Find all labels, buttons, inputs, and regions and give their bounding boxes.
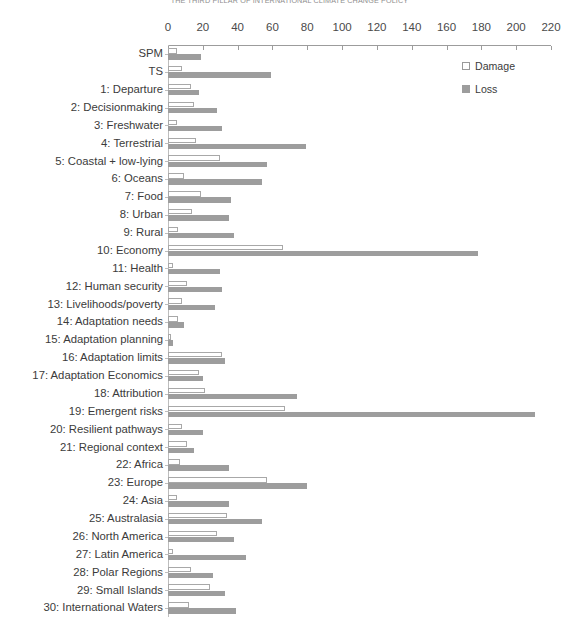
bar-loss (168, 608, 236, 613)
category-label: 20: Resilient pathways (50, 420, 163, 438)
bar-loss (168, 519, 262, 524)
category-label: 21: Regional context (60, 438, 163, 456)
bar-damage (168, 584, 210, 589)
bar-loss (168, 537, 234, 542)
bar-damage (168, 406, 285, 411)
category-label: 15: Adaptation planning (45, 331, 163, 349)
chart-category-row: 6: Oceans (168, 170, 551, 188)
x-axis-tick-40: 40 (231, 21, 244, 33)
bar-damage (168, 120, 177, 125)
category-label: 29: Small Islands (77, 581, 163, 599)
bar-damage (168, 316, 178, 321)
bar-loss (168, 251, 478, 256)
category-label: 24: Asia (123, 492, 163, 510)
bar-damage (168, 602, 189, 607)
chart-category-row: 10: Economy (168, 242, 551, 260)
bar-damage (168, 531, 217, 536)
bar-loss (168, 322, 184, 327)
bar-damage (168, 173, 184, 178)
x-axis-tick-180: 180 (472, 21, 491, 33)
bar-loss (168, 108, 217, 113)
x-axis-tick-80: 80 (301, 21, 314, 33)
x-axis-tick-60: 60 (266, 21, 279, 33)
category-label: 30: International Waters (43, 599, 163, 617)
category-label: 16: Adaptation limits (62, 349, 163, 367)
x-axis-tick-220: 220 (541, 21, 560, 33)
bar-loss (168, 358, 225, 363)
bar-loss (168, 340, 173, 345)
bar-damage (168, 66, 182, 71)
chart-category-row: 14: Adaptation needs (168, 313, 551, 331)
bar-loss (168, 483, 307, 488)
bar-damage (168, 263, 173, 268)
bar-damage (168, 441, 187, 446)
chart-category-row: 8: Urban (168, 206, 551, 224)
x-axis-tick-200: 200 (507, 21, 526, 33)
bar-loss (168, 448, 194, 453)
category-label: 13: Livelihoods/poverty (47, 295, 163, 313)
bar-loss (168, 501, 229, 506)
bar-loss (168, 269, 220, 274)
bar-damage (168, 477, 267, 482)
bar-damage (168, 227, 178, 232)
category-label: 12: Human security (66, 277, 163, 295)
chart-category-row: 12: Human security (168, 277, 551, 295)
bar-damage (168, 155, 220, 160)
chart-category-row: 20: Resilient pathways (168, 420, 551, 438)
chart-category-row: 17: Adaptation Economics (168, 367, 551, 385)
x-axis-tick-20: 20 (196, 21, 209, 33)
category-label: 23: Europe (108, 474, 163, 492)
category-label: 5: Coastal + low-lying (55, 152, 163, 170)
category-label: 9: Rural (123, 224, 163, 242)
chart-category-row: 28: Polar Regions (168, 563, 551, 581)
bar-loss (168, 465, 229, 470)
bar-loss (168, 215, 229, 220)
chart-title: THE THIRD PILLAR OF INTERNATIONAL CLIMAT… (0, 0, 579, 6)
bar-damage (168, 334, 171, 339)
category-label: 26: North America (73, 528, 163, 546)
bar-loss (168, 430, 203, 435)
bar-loss (168, 376, 203, 381)
chart-category-row: 24: Asia (168, 492, 551, 510)
legend-label-damage: Damage (475, 60, 515, 72)
bar-damage (168, 281, 187, 286)
bar-loss (168, 162, 267, 167)
chart-category-row: 11: Health (168, 260, 551, 278)
chart-category-row: 5: Coastal + low-lying (168, 152, 551, 170)
chart-category-row: 13: Livelihoods/poverty (168, 295, 551, 313)
bar-damage (168, 424, 182, 429)
chart-category-row: 25: Australasia (168, 510, 551, 528)
bar-damage (168, 191, 201, 196)
bar-damage (168, 495, 177, 500)
bar-loss (168, 72, 271, 77)
bar-damage (168, 245, 283, 250)
bar-damage (168, 298, 182, 303)
bar-damage (168, 388, 205, 393)
x-axis-tick-labels: 020406080100120140160180200220 (0, 21, 579, 37)
plot-area: SPMTS1: Departure2: Decisionmaking3: Fre… (168, 45, 551, 617)
bar-damage (168, 567, 191, 572)
bar-loss (168, 573, 213, 578)
bar-loss (168, 591, 225, 596)
bar-damage (168, 84, 191, 89)
bar-loss (168, 144, 306, 149)
bar-damage (168, 138, 196, 143)
category-label: 2: Decisionmaking (71, 99, 163, 117)
bar-damage (168, 549, 173, 554)
legend-swatch-loss-icon (462, 85, 470, 93)
bar-loss (168, 179, 262, 184)
legend-item-damage: Damage (462, 60, 562, 72)
bar-chart: THE THIRD PILLAR OF INTERNATIONAL CLIMAT… (0, 0, 579, 627)
bar-damage (168, 352, 222, 357)
category-label: 19: Emergent risks (69, 403, 163, 421)
category-label: 22: Africa (116, 456, 163, 474)
category-label: 4: Terrestrial (101, 134, 163, 152)
chart-category-row: 7: Food (168, 188, 551, 206)
legend-label-loss: Loss (475, 83, 497, 95)
bar-loss (168, 555, 246, 560)
category-label: 14: Adaptation needs (57, 313, 163, 331)
bar-loss (168, 287, 222, 292)
chart-category-row: 18: Attribution (168, 385, 551, 403)
x-axis-tick-160: 160 (437, 21, 456, 33)
bar-damage (168, 48, 177, 53)
